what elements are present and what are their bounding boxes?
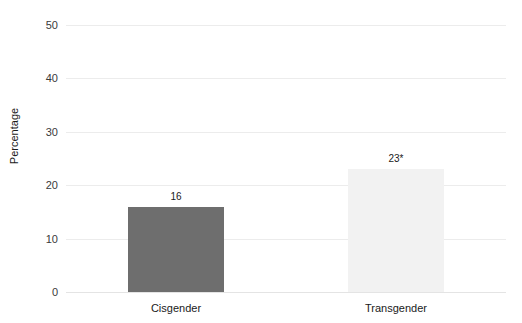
y-axis-tick-label: 40 bbox=[22, 73, 58, 84]
bar-chart: Percentage 01020304050 1623* CisgenderTr… bbox=[0, 0, 522, 323]
bar-value-label: 16 bbox=[128, 192, 224, 202]
y-axis-tick-label: 50 bbox=[22, 20, 58, 31]
y-axis-tick-label: 10 bbox=[22, 234, 58, 245]
gridline bbox=[66, 25, 506, 26]
plot-area: 1623* bbox=[66, 25, 506, 292]
x-axis-tick-label: Transgender bbox=[326, 303, 466, 314]
gridline bbox=[66, 132, 506, 133]
gridline bbox=[66, 292, 506, 293]
bar-cisgender bbox=[128, 207, 224, 292]
y-axis-tick-label: 30 bbox=[22, 127, 58, 138]
gridline bbox=[66, 78, 506, 79]
y-axis-tick-label: 20 bbox=[22, 180, 58, 191]
y-axis-title: Percentage bbox=[8, 76, 20, 196]
bar-value-label: 23* bbox=[348, 154, 444, 164]
chart-title bbox=[66, 0, 506, 3]
bar-transgender bbox=[348, 169, 444, 292]
x-axis-tick-label: Cisgender bbox=[106, 303, 246, 314]
y-axis-tick-label: 0 bbox=[22, 287, 58, 298]
